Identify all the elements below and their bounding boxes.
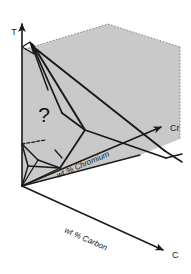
phase-diagram-canvas: T Cr C wt % Chromium wt % Carbon ? bbox=[0, 0, 191, 274]
unknown-region-question-mark: ? bbox=[38, 103, 50, 126]
right-edge-fork-lower bbox=[165, 151, 182, 162]
carbon-axis-label: C bbox=[172, 250, 179, 260]
temperature-axis-label: T bbox=[11, 27, 17, 37]
chromium-axis-label: Cr bbox=[170, 123, 180, 133]
ternary-phase-diagram-figure: T Cr C wt % Chromium wt % Carbon ? bbox=[0, 0, 191, 274]
carbon-plane-label: wt % Carbon bbox=[63, 226, 109, 253]
